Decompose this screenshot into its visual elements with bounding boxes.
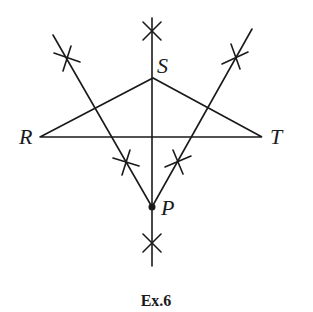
label-s: S (157, 53, 168, 78)
arc-cross-left-upper (54, 46, 80, 71)
label-p: P (160, 195, 174, 220)
label-r: R (18, 124, 33, 149)
perpendicular-line-rs (53, 35, 152, 207)
arc-cross-right-upper (222, 44, 248, 69)
arc-cross-left-lower (113, 150, 139, 175)
label-t: T (270, 124, 284, 149)
figure-caption: Ex.6 (141, 292, 172, 309)
arc-cross-right-lower (165, 150, 191, 174)
triangle-rst (40, 78, 262, 137)
point-p-dot (149, 204, 156, 211)
construction-diagram: S R T P Ex.6 (0, 0, 313, 312)
